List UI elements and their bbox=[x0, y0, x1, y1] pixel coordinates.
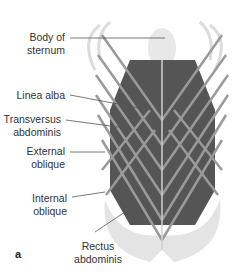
label-linea-alba: Linea alba bbox=[17, 89, 65, 102]
label-internal-oblique: Internal oblique bbox=[32, 192, 67, 218]
panel-letter: a bbox=[15, 248, 21, 260]
label-external-oblique: External oblique bbox=[26, 145, 65, 171]
label-rectus-abdominis: Rectus abdominis bbox=[68, 240, 128, 266]
label-transversus-abdominis: Transversus abdominis bbox=[4, 113, 61, 139]
label-body-of-sternum: Body of sternum bbox=[27, 31, 65, 57]
